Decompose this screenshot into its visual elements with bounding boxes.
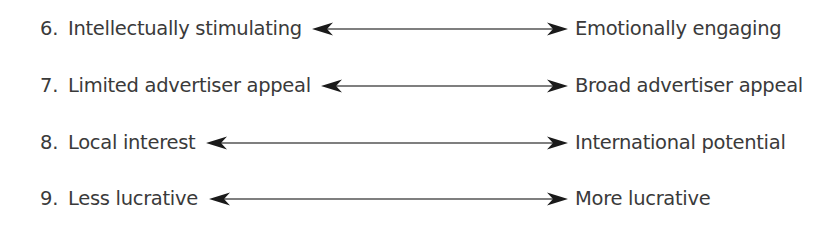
scale-item-8: 8. Local interest International potentia…	[0, 127, 840, 159]
left-pole-label: Local interest	[68, 127, 195, 159]
right-pole-label: Emotionally engaging	[575, 13, 781, 45]
left-pole-label: Less lucrative	[68, 183, 198, 215]
left-pole-label: Limited advertiser appeal	[68, 70, 311, 102]
double-headed-arrow-icon	[321, 77, 568, 95]
item-number: 6.	[40, 13, 58, 45]
right-pole-label: More lucrative	[575, 183, 710, 215]
double-headed-arrow-icon	[312, 20, 568, 38]
item-number: 8.	[40, 127, 58, 159]
double-headed-arrow-icon	[209, 190, 568, 208]
scale-item-9: 9. Less lucrative More lucrative	[0, 183, 840, 215]
item-number: 9.	[40, 183, 58, 215]
left-pole-label: Intellectually stimulating	[68, 13, 302, 45]
right-pole-label: Broad advertiser appeal	[575, 70, 803, 102]
scale-item-6: 6. Intellectually stimulating Emotionall…	[0, 13, 840, 45]
item-number: 7.	[40, 70, 58, 102]
scale-item-7: 7. Limited advertiser appeal Broad adver…	[0, 70, 840, 102]
right-pole-label: International potential	[575, 127, 786, 159]
double-headed-arrow-icon	[206, 134, 568, 152]
